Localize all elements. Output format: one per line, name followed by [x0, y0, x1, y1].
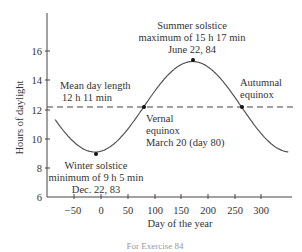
figure-caption: For Exercise 84 — [100, 240, 210, 252]
svg-text:12: 12 — [32, 105, 43, 116]
summer-line-2: maximum of 15 h 17 min — [132, 32, 252, 44]
vernal-line-2: equinox — [146, 125, 224, 137]
svg-text:50: 50 — [123, 205, 134, 216]
winter-line-3: Dec. 22, 83 — [48, 184, 144, 196]
svg-text:200: 200 — [200, 205, 216, 216]
svg-text:250: 250 — [227, 205, 243, 216]
svg-text:6: 6 — [37, 192, 42, 203]
summer-line-1: Summer solstice — [132, 20, 252, 32]
svg-text:−50: −50 — [65, 205, 81, 216]
x-axis-label: Day of the year — [120, 218, 240, 230]
winter-line-1: Winter solstice — [48, 160, 144, 172]
x-tick-labels: −50 0 50 100 150 200 250 300 — [65, 205, 269, 216]
svg-text:10: 10 — [32, 134, 43, 145]
svg-text:100: 100 — [147, 205, 163, 216]
autumnal-line-1: Autumnal — [240, 77, 282, 89]
y-axis-label: Hours of daylight — [14, 73, 25, 163]
autumnal-equinox-annotation: Autumnal equinox — [240, 77, 282, 101]
vernal-line-1: Vernal — [146, 113, 224, 125]
svg-text:14: 14 — [32, 75, 43, 86]
autumnal-equinox-point — [240, 105, 244, 109]
summer-solstice-annotation: Summer solstice maximum of 15 h 17 min J… — [132, 20, 252, 56]
mean-day-length-annotation: Mean day length 12 h 11 min — [60, 80, 131, 104]
winter-solstice-point — [94, 152, 98, 156]
vernal-equinox-annotation: Vernal equinox March 20 (day 80) — [146, 113, 224, 149]
autumnal-line-2: equinox — [240, 89, 282, 101]
mean-line-1: Mean day length — [60, 80, 131, 92]
svg-text:8: 8 — [37, 163, 42, 174]
svg-text:150: 150 — [173, 205, 189, 216]
winter-solstice-annotation: Winter solstice minimum of 9 h 5 min Dec… — [48, 160, 144, 196]
svg-text:300: 300 — [253, 205, 269, 216]
summer-line-3: June 22, 84 — [132, 44, 252, 56]
y-tick-labels: 16 14 12 10 8 6 — [32, 46, 43, 203]
summer-solstice-point — [191, 58, 195, 62]
svg-text:0: 0 — [98, 205, 103, 216]
vernal-equinox-point — [142, 105, 146, 109]
mean-line-2: 12 h 11 min — [60, 92, 131, 104]
svg-text:16: 16 — [32, 46, 43, 57]
vernal-line-3: March 20 (day 80) — [146, 137, 224, 149]
winter-line-2: minimum of 9 h 5 min — [48, 172, 144, 184]
